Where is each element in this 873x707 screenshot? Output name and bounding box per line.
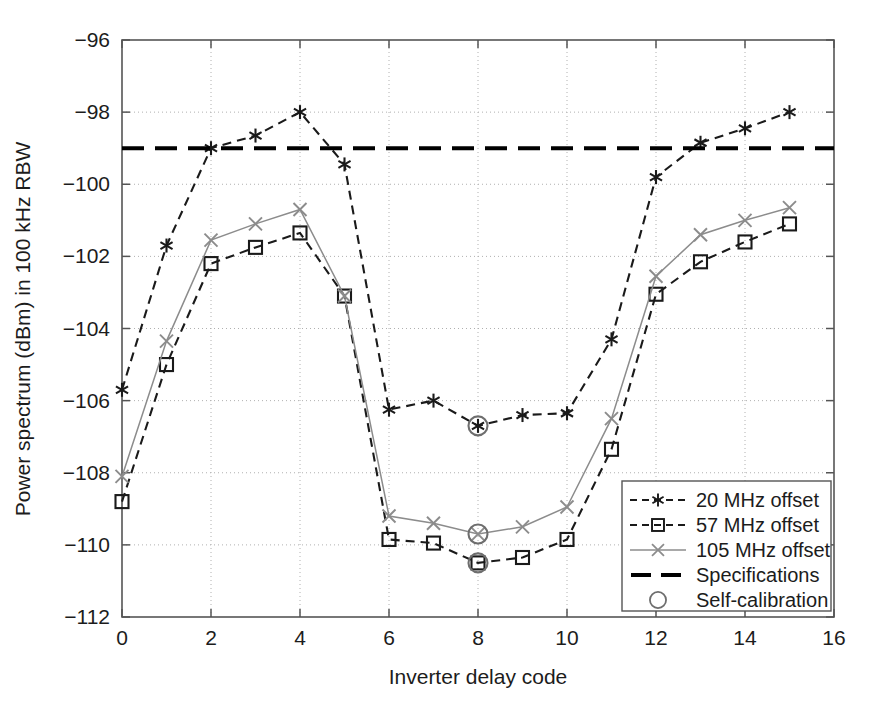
y-tick-label: −102: [63, 244, 110, 267]
chart-legend: 20 MHz offset57 MHz offset105 MHz offset…: [622, 481, 831, 611]
x-tick-label: 16: [822, 626, 845, 649]
x-tick-label: 12: [644, 626, 667, 649]
y-tick-label: −106: [63, 389, 110, 412]
x-tick-label: 2: [205, 626, 217, 649]
y-tick-label: −112: [64, 605, 110, 628]
x-tick-label: 4: [294, 626, 306, 649]
legend-label: 20 MHz offset: [696, 489, 819, 511]
chart-figure: 0246810121416 −112−110−108−106−104−102−1…: [0, 0, 873, 707]
x-tick-label: 10: [555, 626, 578, 649]
legend-label: 105 MHz offset: [696, 539, 831, 561]
y-axis-title: Power spectrum (dBm) in 100 kHz RBW: [11, 142, 34, 517]
power-spectrum-chart: 0246810121416 −112−110−108−106−104−102−1…: [0, 0, 873, 707]
y-tick-label: −100: [63, 172, 110, 195]
x-tick-label: 8: [472, 626, 484, 649]
y-tick-label: −98: [74, 100, 110, 123]
x-tick-label: 14: [733, 626, 757, 649]
y-tick-label: −96: [74, 28, 110, 51]
y-tick-label: −108: [63, 461, 110, 484]
y-tick-label: −110: [64, 533, 110, 556]
y-tick-label: −104: [63, 317, 111, 340]
x-tick-label: 0: [116, 626, 128, 649]
legend-label: Self-calibration: [696, 589, 828, 611]
x-axis-title: Inverter delay code: [389, 665, 568, 688]
legend-label: 57 MHz offset: [696, 514, 819, 536]
legend-label: Specifications: [696, 564, 819, 586]
x-tick-label: 6: [383, 626, 395, 649]
